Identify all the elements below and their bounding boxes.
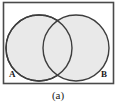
venn-diagram-svg: [0, 0, 129, 88]
set-b-label: B: [101, 70, 107, 79]
venn-diagram-figure: A B (a): [0, 0, 129, 106]
venn-diagram-canvas: [0, 0, 129, 88]
figure-caption: (a): [0, 88, 116, 102]
set-b-circle: [43, 15, 109, 81]
set-a-label: A: [9, 70, 16, 79]
